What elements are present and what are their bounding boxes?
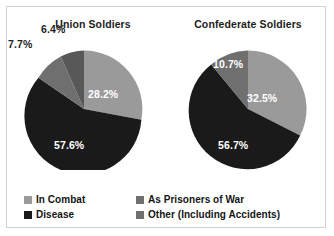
confederate-label-disease: 56.7%: [218, 139, 248, 151]
chart-legend: In Combat As Prisoners of War Disease Ot…: [24, 192, 314, 222]
chart-figure: Union Soldiers 28.2% 57.6% 7.7% 6.4% Con…: [0, 0, 334, 236]
legend-item-other: Other (Including Accidents): [136, 209, 314, 220]
confederate-label-in-combat: 32.5%: [247, 92, 277, 104]
legend-item-prisoners-of-war: As Prisoners of War: [136, 194, 314, 205]
legend-swatch-icon: [24, 211, 32, 219]
legend-item-disease: Disease: [24, 209, 136, 220]
confederate-label-other: 10.7%: [213, 58, 243, 70]
legend-item-in-combat: In Combat: [24, 194, 136, 205]
union-label-in-combat: 28.2%: [88, 88, 118, 100]
union-pie-chart: [23, 48, 145, 170]
legend-label: Disease: [36, 209, 74, 220]
legend-swatch-icon: [24, 196, 32, 204]
legend-swatch-icon: [136, 211, 144, 219]
legend-label: As Prisoners of War: [148, 194, 244, 205]
confederate-chart-title: Confederate Soldiers: [178, 18, 318, 30]
union-slice-in-combat: [84, 50, 142, 119]
legend-label: Other (Including Accidents): [148, 209, 280, 220]
confederate-pie-svg: [187, 48, 309, 170]
union-label-disease: 57.6%: [54, 139, 84, 151]
union-label-prisoners-of-war: 7.7%: [8, 38, 32, 50]
legend-swatch-icon: [136, 196, 144, 204]
confederate-pie-chart: [187, 48, 309, 170]
union-pie-svg: [23, 48, 145, 170]
union-label-other: 6.4%: [41, 23, 65, 35]
legend-label: In Combat: [36, 194, 85, 205]
